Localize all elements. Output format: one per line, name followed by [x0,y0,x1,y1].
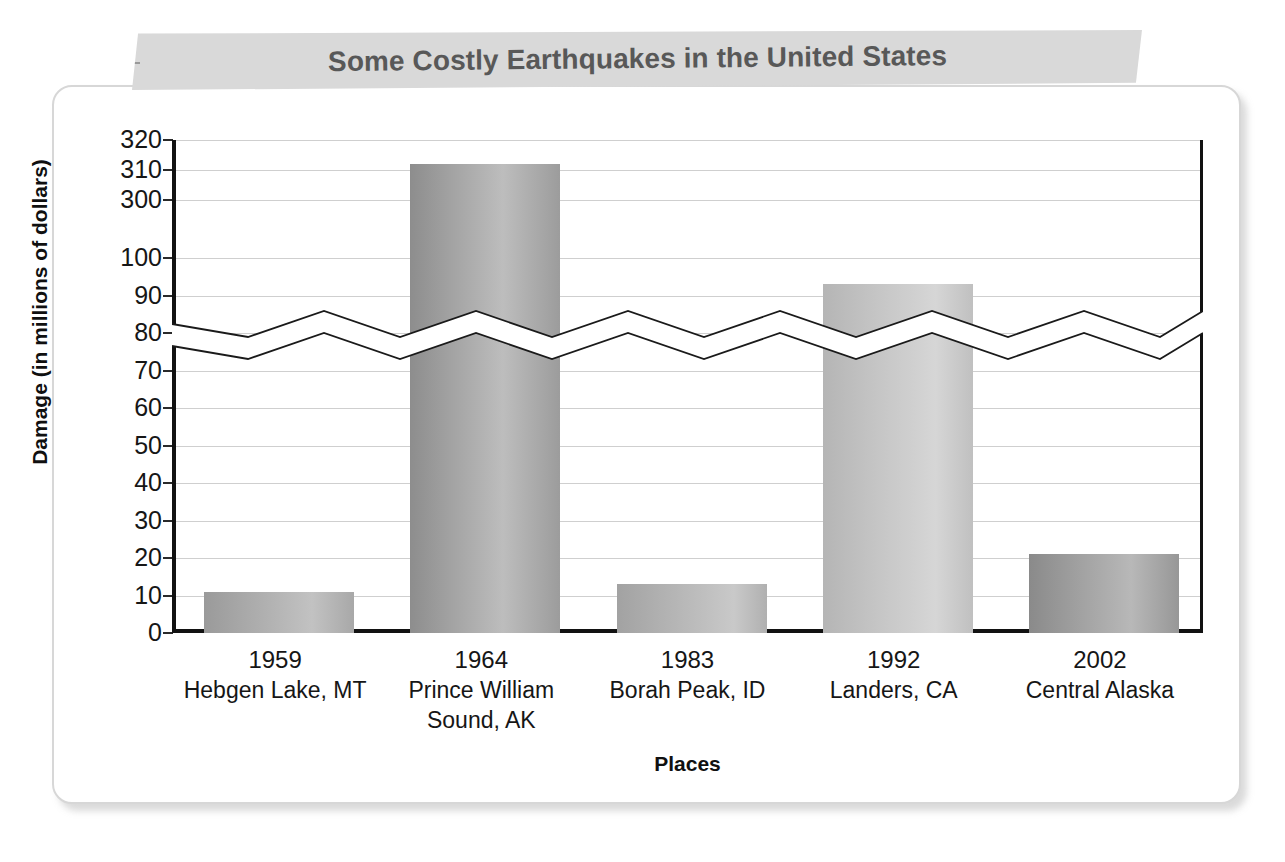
x-axis-tick-labels: 1959Hebgen Lake, MT1964Prince WilliamSou… [172,645,1203,755]
plot-area [172,140,1203,633]
y-tick-label: 90 [104,283,162,308]
y-tick-label: 0 [104,620,162,645]
x-category-year: 1964 [378,645,584,675]
x-category-year: 2002 [997,645,1203,675]
bar [1029,554,1179,633]
y-tick-label: 320 [104,127,162,152]
y-tick-label: 300 [104,187,162,212]
y-tick-label: 70 [104,358,162,383]
y-axis-title: Damage (in millions of dollars) [28,92,52,532]
y-tick-label: 30 [104,508,162,533]
bar [204,592,354,633]
bar [410,164,560,633]
y-tick-label: 10 [104,583,162,608]
y-tick-label: 60 [104,395,162,420]
x-category-place: Landers, CA [791,675,997,705]
x-category-place: Prince William [378,675,584,705]
x-category-label: 1964Prince WilliamSound, AK [378,645,584,755]
x-category-label: 1983Borah Peak, ID [584,645,790,755]
chart-title-banner: Some Costly Earthquakes in the United St… [132,30,1142,90]
bar [617,584,767,633]
y-tick-label: 100 [104,245,162,270]
y-tick-label: 310 [104,157,162,182]
bar [823,284,973,633]
x-category-label: 1992Landers, CA [791,645,997,755]
y-tick-label: 50 [104,433,162,458]
x-category-place-line2: Sound, AK [378,705,584,735]
x-axis-title: Places [172,752,1203,776]
x-category-place: Central Alaska [997,675,1203,705]
x-category-label: 1959Hebgen Lake, MT [172,645,378,755]
x-category-year: 1959 [172,645,378,675]
y-tick-label: 20 [104,545,162,570]
x-category-year: 1992 [791,645,997,675]
x-category-place: Hebgen Lake, MT [172,675,378,705]
x-category-place: Borah Peak, ID [584,675,790,705]
x-category-label: 2002Central Alaska [997,645,1203,755]
y-tick-label: 80 [104,320,162,345]
y-axis-tick-labels: 3203103001009080706050403020100 [104,0,162,862]
y-tick-label: 40 [104,470,162,495]
chart-title: Some Costly Earthquakes in the United St… [327,40,946,78]
x-category-year: 1983 [584,645,790,675]
